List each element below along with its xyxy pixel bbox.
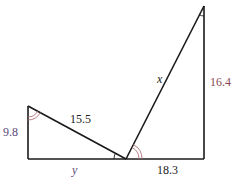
geometry-diagram: 9.8 15.5 y 18.3 x 16.4 xyxy=(0,0,246,179)
label-left-hypotenuse: 15.5 xyxy=(70,112,91,126)
double-arc-angle-a-inner xyxy=(28,113,40,120)
angle-marks xyxy=(28,15,204,159)
label-right-vertical: 16.4 xyxy=(210,75,231,89)
label-x: x xyxy=(156,72,163,86)
label-right-base: 18.3 xyxy=(157,163,178,177)
double-arc-angle-a xyxy=(28,111,38,117)
right-triangle xyxy=(126,6,204,159)
label-y: y xyxy=(71,163,78,177)
right-hypotenuse xyxy=(126,6,204,159)
double-arc-angle-c-right xyxy=(132,147,139,159)
double-arc-angle-c-right-outer xyxy=(133,145,142,159)
single-arc-angle-c-left xyxy=(114,153,115,159)
label-left-vertical: 9.8 xyxy=(3,125,18,139)
